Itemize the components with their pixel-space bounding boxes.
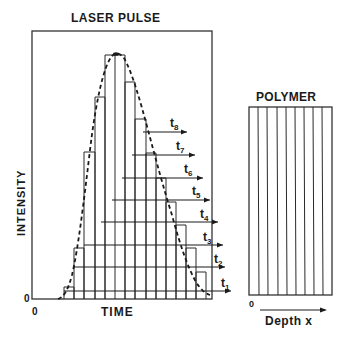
polymer-layer-line <box>277 107 278 295</box>
label-t7: t7 <box>176 139 185 155</box>
histogram-bins <box>64 55 206 299</box>
polymer-layer-line <box>295 107 296 295</box>
y-origin-label: 0 <box>24 293 30 304</box>
pulse-title: LASER PULSE <box>71 11 161 25</box>
polymer-frame <box>249 107 332 295</box>
x-axis-label: TIME <box>101 305 134 319</box>
polymer-title: POLYMER <box>256 90 316 104</box>
label-t4: t4 <box>200 207 209 223</box>
arrowhead-icon <box>212 220 218 225</box>
polymer-layer-line <box>304 107 305 295</box>
polymer-layer-line <box>322 107 323 295</box>
laser-pulse-polymer-diagram: LASER PULSE INTENSITY 0 0 TIME <box>0 0 351 339</box>
pulse-step-histogram <box>64 55 206 299</box>
label-t1: t1 <box>221 276 230 292</box>
y-axis-label: INTENSITY <box>15 170 27 236</box>
label-t6: t6 <box>184 162 193 178</box>
time-labels: t1 t2 t3 t4 t5 t6 t7 t8 <box>170 116 230 292</box>
arrowhead-icon <box>189 153 195 158</box>
label-t8: t8 <box>170 116 179 132</box>
depth-axis-label: Depth x <box>265 314 313 328</box>
label-t5: t5 <box>192 184 201 200</box>
arrowhead-icon <box>204 198 210 203</box>
polymer-layer-line <box>258 107 259 295</box>
polymer-layer-line <box>286 107 287 295</box>
polymer-origin-label: 0 <box>249 299 254 309</box>
arrowhead-icon <box>197 176 203 181</box>
arrowhead-icon <box>181 130 187 135</box>
arrowhead-icon <box>320 308 327 313</box>
polymer-layer-line <box>313 107 314 295</box>
arrowhead-icon <box>217 243 223 248</box>
polymer-block <box>249 107 332 295</box>
polymer-layer-line <box>267 107 268 295</box>
label-t2: t2 <box>214 252 223 268</box>
x-origin-label: 0 <box>32 306 38 317</box>
peak-marker <box>113 52 119 56</box>
label-t3: t3 <box>203 230 212 246</box>
